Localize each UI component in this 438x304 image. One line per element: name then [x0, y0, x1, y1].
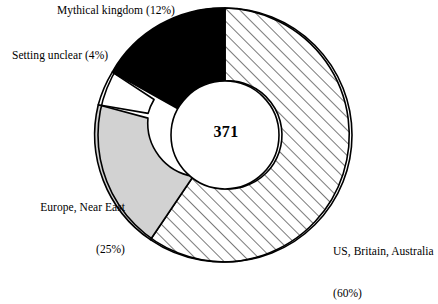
slice-label-europe-near-east-line2: (25%) — [3, 242, 125, 256]
slice-label-europe-near-east: Europe, Near East (25%) — [3, 172, 125, 284]
slice-label-mythical-kingdom: Mythical kingdom (12%) — [57, 3, 175, 17]
slice-label-us-britain-australia-line1: US, Britain, Australia — [333, 244, 438, 258]
slice-label-setting-unclear: Setting unclear (4%) — [12, 48, 108, 62]
slice-label-us-britain-australia: US, Britain, Australia (60%) — [333, 216, 438, 304]
slice-label-europe-near-east-line1: Europe, Near East — [3, 200, 125, 214]
slice-label-us-britain-australia-line2: (60%) — [333, 286, 438, 300]
donut-center-total: 371 — [176, 123, 276, 141]
